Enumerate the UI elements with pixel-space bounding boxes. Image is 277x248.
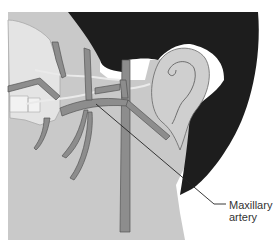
label-line2: artery bbox=[229, 211, 272, 223]
teeth bbox=[10, 96, 40, 112]
label-line1: Maxillary bbox=[229, 199, 272, 211]
maxillary-artery-label: Maxillary artery bbox=[229, 199, 272, 223]
